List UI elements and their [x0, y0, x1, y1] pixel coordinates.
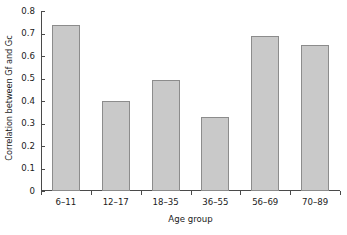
- y-axis-tick-label: 0.7: [14, 29, 35, 38]
- y-axis-tick-mark: [41, 146, 45, 147]
- y-axis-tick-label: 0.4: [14, 97, 35, 106]
- x-axis-tick-label: 56–69: [240, 197, 290, 207]
- x-axis-tick-label: 36–55: [191, 197, 241, 207]
- y-axis-tick-mark: [41, 79, 45, 80]
- x-axis-tick-label: 70–89: [290, 197, 340, 207]
- x-axis-title: Age group: [41, 214, 340, 225]
- y-axis-tick-mark: [41, 169, 45, 170]
- x-axis-tick-mark: [290, 191, 291, 195]
- bar: [152, 80, 180, 191]
- y-axis-tick-labels: 0.80.70.60.50.40.30.20.10: [14, 0, 35, 235]
- y-axis-tick-mark: [41, 11, 45, 12]
- x-axis-tick-mark: [191, 191, 192, 195]
- bar: [201, 117, 229, 191]
- x-axis-tick-label: 18–35: [141, 197, 191, 207]
- y-axis-tick-mark: [41, 124, 45, 125]
- y-axis-tick-label: 0.3: [14, 119, 35, 128]
- y-axis-tick-label: 0.6: [14, 52, 35, 61]
- bar: [52, 25, 80, 192]
- x-axis-tick-mark: [91, 191, 92, 195]
- y-axis-tick-mark: [41, 56, 45, 57]
- x-axis-tick-label: 6–11: [41, 197, 91, 207]
- x-axis-tick-mark: [141, 191, 142, 195]
- y-axis-tick-label: 0.1: [14, 164, 35, 173]
- x-axis-tick-label: 12–17: [91, 197, 141, 207]
- y-axis-tick-label: 0.2: [14, 142, 35, 151]
- x-axis-tick-mark: [240, 191, 241, 195]
- bar: [102, 101, 130, 191]
- bar: [251, 36, 279, 191]
- y-axis-tick-mark: [41, 34, 45, 35]
- y-axis-tick-label: 0.8: [14, 7, 35, 16]
- x-axis-tick-mark: [41, 191, 42, 195]
- plot-area: [41, 11, 340, 191]
- x-axis-tick-mark: [340, 191, 341, 195]
- y-axis-tick-mark: [41, 101, 45, 102]
- bar-chart: Correlation between Gf and Gc 0.80.70.60…: [0, 0, 347, 235]
- y-axis-tick-label: 0.5: [14, 74, 35, 83]
- y-axis-tick-label: 0: [14, 187, 35, 196]
- bar: [301, 45, 329, 191]
